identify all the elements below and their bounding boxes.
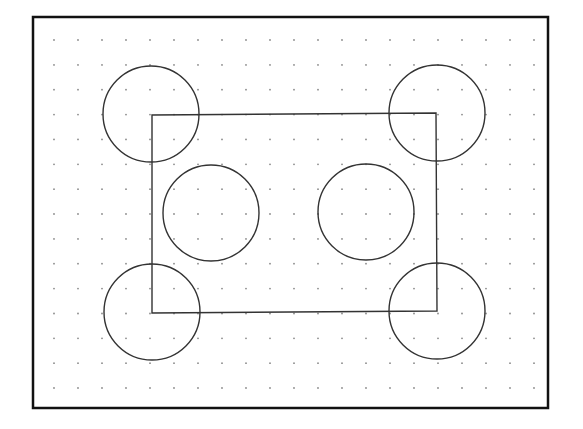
grid-dot (461, 263, 463, 265)
grid-dot (173, 188, 175, 190)
grid-dot (413, 39, 415, 41)
grid-dot (269, 89, 271, 91)
grid-dot (365, 313, 367, 315)
grid-dot (341, 163, 343, 165)
grid-dot (389, 89, 391, 91)
grid-dot (173, 89, 175, 91)
grid-dot (461, 39, 463, 41)
grid-dot (509, 114, 511, 116)
grid-dot (389, 337, 391, 339)
grid-dot (293, 213, 295, 215)
grid-dot (437, 362, 439, 364)
grid-dot (125, 263, 127, 265)
grid-dot (509, 188, 511, 190)
grid-dot (341, 39, 343, 41)
grid-dot (269, 337, 271, 339)
grid-dot (101, 362, 103, 364)
grid-dot (293, 288, 295, 290)
grid-dot (341, 288, 343, 290)
grid-dot (125, 213, 127, 215)
grid-dot (389, 39, 391, 41)
grid-dot (389, 387, 391, 389)
grid-dot (77, 163, 79, 165)
grid-dot (149, 362, 151, 364)
grid-dot (149, 163, 151, 165)
grid-dot (101, 288, 103, 290)
grid-dot (221, 163, 223, 165)
grid-dot (485, 288, 487, 290)
grid-dot (77, 387, 79, 389)
grid-dot (485, 89, 487, 91)
grid-dot (197, 213, 199, 215)
grid-dot (269, 238, 271, 240)
grid-dot (53, 39, 55, 41)
grid-dot (533, 362, 535, 364)
grid-dot (317, 39, 319, 41)
grid-dot (461, 163, 463, 165)
grid-dot (341, 188, 343, 190)
grid-dot (509, 213, 511, 215)
grid-dot (485, 362, 487, 364)
grid-dot (533, 64, 535, 66)
grid-dot (269, 139, 271, 141)
grid-dot (485, 139, 487, 141)
grid-dot (149, 139, 151, 141)
grid-dot (245, 39, 247, 41)
grid-dot (389, 139, 391, 141)
grid-dot (317, 337, 319, 339)
grid-dot (53, 188, 55, 190)
grid-dot (53, 288, 55, 290)
grid-dot (293, 387, 295, 389)
grid-dot (293, 313, 295, 315)
grid-dot (317, 263, 319, 265)
grid-dot (389, 362, 391, 364)
grid-dot (197, 64, 199, 66)
grid-dot (485, 337, 487, 339)
grid-dot (341, 263, 343, 265)
grid-dot (341, 213, 343, 215)
grid-dot (221, 263, 223, 265)
grid-dot (509, 288, 511, 290)
grid-dot (101, 89, 103, 91)
grid-dot (125, 238, 127, 240)
grid-dot (149, 337, 151, 339)
grid-dot (101, 163, 103, 165)
grid-dot (461, 213, 463, 215)
grid-dot (53, 337, 55, 339)
grid-dot (389, 288, 391, 290)
grid-dot (101, 263, 103, 265)
grid-dot (509, 263, 511, 265)
grid-dot (389, 238, 391, 240)
grid-dot (317, 139, 319, 141)
grid-dot (365, 387, 367, 389)
grid-dot (221, 238, 223, 240)
grid-dot (461, 313, 463, 315)
grid-dot (413, 362, 415, 364)
grid-dot (173, 213, 175, 215)
grid-dot (53, 263, 55, 265)
grid-dot (221, 188, 223, 190)
grid-dot (173, 39, 175, 41)
grid-dot (245, 163, 247, 165)
grid-dot (101, 39, 103, 41)
grid-dot (221, 387, 223, 389)
grid-dot (77, 139, 79, 141)
grid-dot (149, 39, 151, 41)
grid-dot (485, 213, 487, 215)
grid-dot (437, 337, 439, 339)
grid-dot (365, 288, 367, 290)
grid-dot (245, 387, 247, 389)
grid-dot (461, 337, 463, 339)
grid-dot (197, 163, 199, 165)
grid-dot (173, 139, 175, 141)
grid-dot (245, 64, 247, 66)
grid-dot (77, 89, 79, 91)
grid-dot (533, 139, 535, 141)
grid-dot (413, 114, 415, 116)
grid-dot (221, 213, 223, 215)
grid-dot (221, 337, 223, 339)
grid-dot (461, 114, 463, 116)
grid-dot (101, 337, 103, 339)
grid-dot (389, 188, 391, 190)
grid-dot (437, 213, 439, 215)
